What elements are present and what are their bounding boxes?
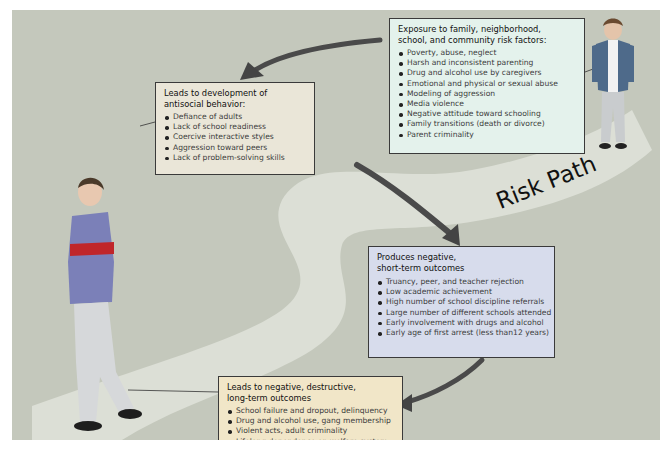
box-title-line: long-term outcomes [227,393,394,404]
list-item: Early age of first arrest (less than12 y… [377,328,546,338]
antisocial-list: Defiance of adults Lack of school readin… [164,112,306,163]
box-title: Produces negative, short-term outcomes [377,252,546,274]
box-title: Leads to negative, destructive, long-ter… [227,382,394,404]
box-title-line: antisocial behavior: [164,99,306,110]
list-item: Aggression toward peers [164,143,306,153]
exposure-risk-factors-box: Exposure to family, neighborhood, school… [389,18,585,154]
box-title-line: Produces negative, [377,252,546,263]
list-item: Early involvement with drugs and alcohol [377,318,546,328]
diagram-canvas: Risk Path Exposure to family, neighborho… [12,10,660,440]
list-item: Negative attitude toward schooling [398,109,576,119]
box-title-line: short-term outcomes [377,263,546,274]
list-item: Defiance of adults [164,112,306,122]
box-title-line: school, and community risk factors: [398,35,576,46]
arrow-shortterm-to-longterm [396,360,482,412]
list-item: Lack of problem-solving skills [164,153,306,163]
list-item: School failure and dropout, delinquency [227,406,394,416]
box-title: Leads to development of antisocial behav… [164,88,306,110]
list-item: Coercive interactive styles [164,132,306,142]
list-item: High number of school discipline referra… [377,297,546,307]
list-item: Lack of school readiness [164,122,306,132]
young-child-figure [588,16,638,156]
list-item: Media violence [398,99,576,109]
short-term-outcomes-box: Produces negative, short-term outcomes T… [368,246,555,358]
list-item: Modeling of aggression [398,89,576,99]
long-term-outcomes-box: Leads to negative, destructive, long-ter… [218,376,403,440]
box-title-line: Exposure to family, neighborhood, [398,24,576,35]
list-item: Large number of different schools attend… [377,308,546,318]
list-item: Parent criminality [398,130,576,140]
box-title: Exposure to family, neighborhood, school… [398,24,576,46]
list-item: Harsh and inconsistent parenting [398,58,576,68]
list-item: Drug and alcohol use by caregivers [398,68,576,78]
box-title-line: Leads to development of [164,88,306,99]
short-term-list: Truancy, peer, and teacher rejection Low… [377,277,546,338]
arrow-exposure-to-antisocial [240,40,380,80]
adolescent-figure [50,172,150,434]
list-item: Poverty, abuse, neglect [398,48,576,58]
list-item: Family transitions (death or divorce) [398,119,576,129]
list-item: Lifelong dependence on welfare system [227,437,394,440]
list-item: Violent acts, adult criminality [227,426,394,436]
long-term-list: School failure and dropout, delinquency … [227,406,394,440]
list-item: Emotional and physical or sexual abuse [398,79,576,89]
box-title-line: Leads to negative, destructive, [227,382,394,393]
list-item: Drug and alcohol use, gang membership [227,416,394,426]
risk-factor-list: Poverty, abuse, neglect Harsh and incons… [398,48,576,140]
list-item: Truancy, peer, and teacher rejection [377,277,546,287]
antisocial-behavior-box: Leads to development of antisocial behav… [155,82,315,175]
list-item: Low academic achievement [377,287,546,297]
